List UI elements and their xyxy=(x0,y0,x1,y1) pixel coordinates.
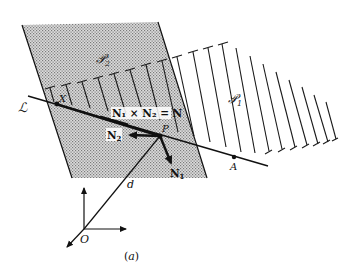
cross-product-label: N₁ × N₂ = N xyxy=(112,107,183,119)
coordinate-axes xyxy=(67,188,126,247)
line-label: ℒ xyxy=(18,100,28,115)
point-a xyxy=(232,155,236,159)
figure-caption: (a) xyxy=(124,250,139,263)
point-a-label: A xyxy=(229,161,237,172)
normal-2-arrow xyxy=(130,135,160,136)
plane-1-label: 𝒫1 xyxy=(228,91,242,108)
planes-intersection-diagram: 𝒫2 𝒫1 ℒ X N₁ × N₂ = N P N2 N1 A d O (a) xyxy=(0,0,362,280)
distance-label: d xyxy=(127,178,134,191)
origin-label: O xyxy=(80,233,89,246)
point-x-label: X xyxy=(58,93,67,104)
plane-2 xyxy=(22,22,207,178)
point-p-label: P xyxy=(161,123,169,134)
